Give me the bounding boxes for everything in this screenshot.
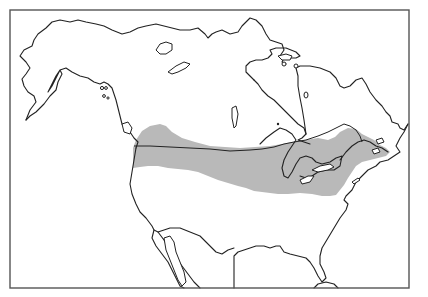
pacific-islet-4: [107, 97, 109, 99]
coastline-northwest: [20, 18, 284, 120]
map-canvas: [0, 0, 428, 297]
vancouver-island: [122, 122, 132, 134]
coastline-hudson-bay-east: [296, 66, 408, 134]
coastline-alaska-south: [26, 68, 138, 148]
arctic-island-5: [294, 64, 298, 68]
coastline-hudson-bay: [254, 80, 310, 144]
hudson-bay-island: [304, 92, 308, 98]
cuba-coastline: [314, 282, 338, 288]
coastline-baffin: [246, 48, 300, 80]
pacific-islet-2: [105, 87, 108, 90]
shaded-range-area: [133, 124, 390, 196]
pacific-islet-3: [103, 95, 106, 98]
western-island: [232, 106, 238, 128]
arctic-island-1: [156, 42, 172, 54]
newfoundland-islet: [376, 138, 384, 144]
long-island: [352, 178, 360, 184]
range-map: Range map of North America Shaded range: [0, 0, 428, 297]
hudson-bay-dot: [277, 123, 279, 125]
arctic-island-4: [282, 62, 286, 66]
arctic-island-2: [168, 62, 190, 74]
pacific-islet-1: [100, 86, 103, 89]
